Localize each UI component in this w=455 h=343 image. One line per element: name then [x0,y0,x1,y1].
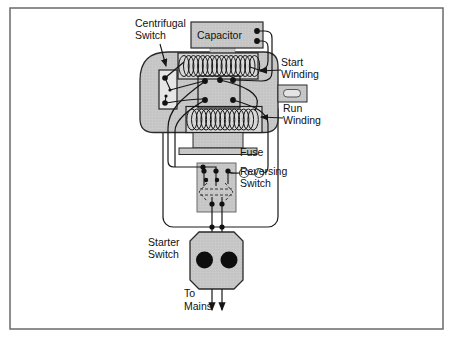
terminal-dot [202,78,208,84]
capacitor-terminal-dot [254,38,260,44]
starter-button-left [196,252,213,269]
reversing-terminal-dot [204,178,208,182]
starter-switch-label-line1: Starter [148,236,180,248]
motor-pedestal [193,133,243,149]
capacitor-terminal-dot [254,28,260,34]
reversing-switch-label-line2: Switch [240,177,271,189]
terminal-dot [162,75,168,81]
enclosure-crossing-dot [219,224,224,229]
start-winding-label-line1: Start [281,56,303,68]
reversing-terminal-dot [215,178,219,182]
terminal-dot [217,77,223,83]
fuse-label: Fuse [240,146,264,158]
reversing-switch-label-line1: Reversing [240,165,287,177]
to-mains-label-line1: To [184,287,195,299]
enclosure-crossing-dot [209,224,214,229]
capacitor-label: Capacitor [197,29,242,41]
reversing-terminal-dot [213,168,218,173]
centrifugal-switch-label-line1: Centrifugal [135,17,186,29]
terminal-dot [162,100,168,106]
contact-dot [164,94,167,97]
wiring-diagram-canvas: Capacitor [0,0,455,343]
reversing-terminal-dot [201,168,206,173]
reversing-terminal-dot [225,168,230,173]
terminal-dot [230,97,236,103]
figure: Capacitor [0,0,455,343]
reversing-terminal-dot [219,201,224,206]
run-winding [186,107,262,133]
terminal-dot [202,97,208,103]
reversing-terminal-dot [209,201,214,206]
start-winding [178,53,260,79]
starter-switch [190,232,243,289]
start-winding-label-line2: Winding [281,68,319,80]
terminal-dot [230,77,236,83]
centrifugal-switch-label-line2: Switch [135,29,166,41]
to-mains-label-line2: Mains [184,300,212,312]
run-winding-label-line2: Winding [283,114,321,126]
starter-button-right [221,252,238,269]
run-winding-label-line1: Run [283,102,302,114]
starter-switch-label-line2: Switch [148,248,179,260]
shaft-keyway [284,90,301,98]
